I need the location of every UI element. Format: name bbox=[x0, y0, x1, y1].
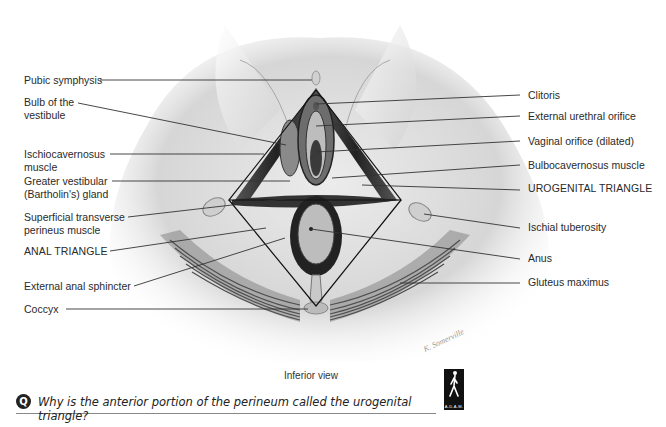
label-ischial-tuberosity: Ischial tuberosity bbox=[528, 221, 606, 234]
label-external-anal-sphincter: External anal sphincter bbox=[24, 280, 131, 293]
label-greater-vestibular-gland: Greater vestibular (Bartholin's) gland bbox=[24, 175, 108, 201]
question-text: Why is the anterior portion of the perin… bbox=[38, 395, 436, 423]
label-anus: Anus bbox=[528, 252, 552, 265]
label-anal-triangle: ANAL TRIANGLE bbox=[24, 245, 108, 258]
label-gluteus-maximus: Gluteus maximus bbox=[528, 276, 609, 289]
review-question: Q Why is the anterior portion of the per… bbox=[16, 393, 436, 414]
label-bulbocavernosus-muscle: Bulbocavernosus muscle bbox=[528, 159, 645, 172]
logo-text: A.D.A.M. bbox=[444, 404, 464, 409]
perineum-diagram: K. Somerville Pubic symphysis Bulb of th… bbox=[0, 0, 666, 427]
label-superficial-transverse-perineus: Superficial transverse perineus muscle bbox=[24, 211, 125, 237]
label-clitoris: Clitoris bbox=[528, 89, 560, 102]
label-pubic-symphysis: Pubic symphysis bbox=[24, 74, 102, 87]
label-coccyx: Coccyx bbox=[24, 303, 58, 316]
label-vaginal-orifice: Vaginal orifice (dilated) bbox=[528, 135, 634, 148]
view-caption: Inferior view bbox=[284, 370, 338, 381]
question-icon: Q bbox=[16, 394, 31, 409]
label-urogenital-triangle: UROGENITAL TRIANGLE bbox=[528, 182, 652, 195]
label-ischiocavernosus-muscle: Ischiocavernosus muscle bbox=[24, 148, 105, 174]
label-external-urethral-orifice: External urethral orifice bbox=[528, 110, 636, 123]
walking-figure-icon bbox=[444, 369, 464, 403]
label-bulb-of-vestibule: Bulb of the vestibule bbox=[24, 96, 74, 122]
adam-logo: A.D.A.M. bbox=[444, 369, 464, 410]
